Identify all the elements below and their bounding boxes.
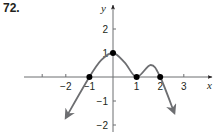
axes (24, 5, 212, 132)
y-tick-label: 2 (102, 24, 108, 35)
x-tick-label: 3 (181, 81, 187, 92)
marked-point (86, 74, 92, 80)
function-graph: −2−112321−1−2 x y (0, 0, 224, 135)
marked-point (157, 74, 163, 80)
y-axis-label: y (100, 2, 106, 14)
marked-point (110, 50, 116, 56)
marked-point (134, 74, 140, 80)
y-tick-label: −1 (97, 96, 109, 107)
x-tick-label: −2 (60, 81, 72, 92)
x-tick-label: 1 (134, 81, 140, 92)
y-tick-label: −2 (97, 120, 109, 131)
x-axis-label: x (206, 79, 212, 91)
